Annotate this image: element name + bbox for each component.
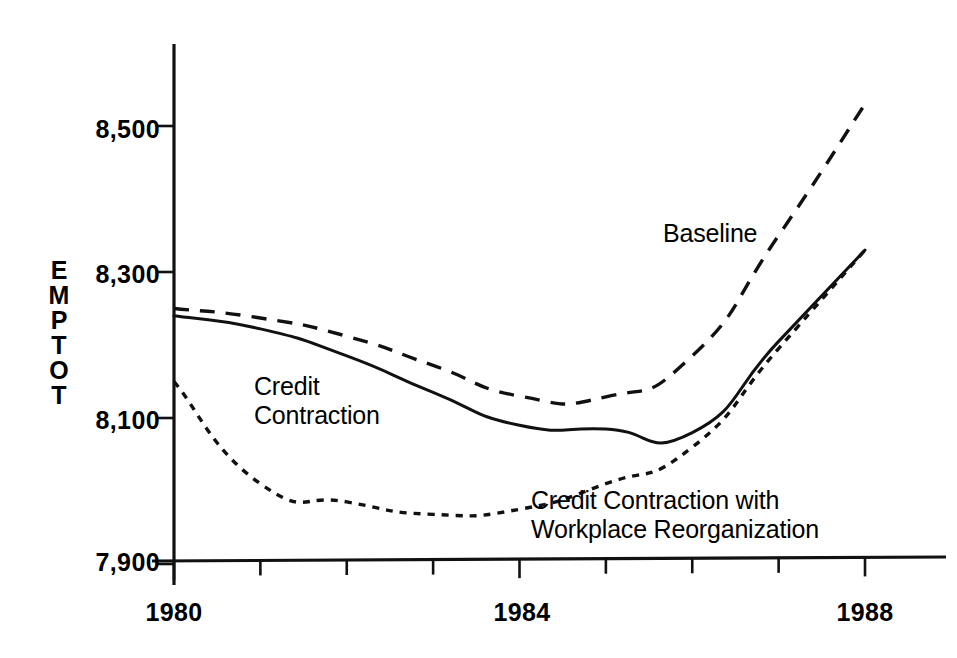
y-tick-label-8300: 8,300	[48, 260, 160, 289]
y-axis-ticks	[156, 126, 174, 564]
y-tick-label-8500: 8,500	[48, 115, 160, 144]
x-tick-label-1988: 1988	[805, 598, 925, 627]
y-axis-label-letter-3: T	[44, 333, 74, 358]
y-tick-label-8100: 8,100	[48, 406, 160, 435]
y-axis-label-letter-2: P	[44, 308, 74, 333]
annotation-credit-contraction-line2: Contraction	[254, 401, 380, 430]
x-tick-label-1980: 1980	[114, 598, 234, 627]
annotation-credit-contraction-line1: Credit	[254, 372, 320, 401]
annotation-baseline: Baseline	[663, 219, 757, 248]
x-tick-label-1984: 1984	[462, 598, 582, 627]
y-axis-label-letter-5: T	[44, 383, 74, 408]
annotation-reorg-line2: Workplace Reorganization	[531, 515, 819, 544]
annotation-reorg-line1: Credit Contraction with	[531, 486, 779, 515]
x-axis-line	[152, 557, 946, 561]
y-tick-label-7900: 7,900	[48, 548, 160, 577]
y-axis-label-letter-4: O	[44, 358, 74, 383]
chart-figure: EMPTOT 8,500 8,300 8,100 7,900 1980 1984…	[0, 0, 957, 658]
